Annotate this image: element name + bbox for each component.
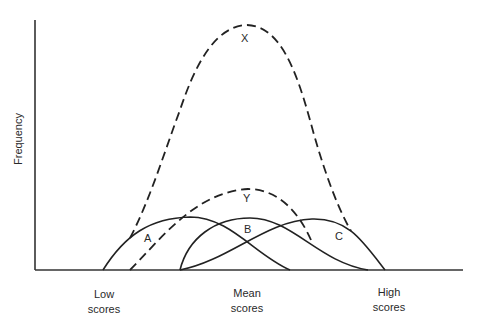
y-axis-label: Frequency (12, 125, 32, 165)
x-tick-mean-line1: Mean (233, 287, 261, 299)
x-tick-high-line1: High (378, 286, 401, 298)
x-tick-mean-line2: scores (217, 301, 277, 316)
label-y: Y (243, 192, 251, 204)
label-a: A (144, 232, 152, 244)
label-x: X (241, 32, 249, 44)
x-tick-mean: Mean scores (217, 286, 277, 316)
chart-canvas: X Y A B C (0, 0, 483, 329)
x-tick-low-line1: Low (94, 288, 114, 300)
curve-b (180, 218, 368, 270)
label-b: B (244, 223, 251, 235)
curve-a (103, 217, 290, 270)
x-tick-low-line2: scores (74, 302, 134, 317)
x-tick-high-line2: scores (359, 300, 419, 315)
curve-y (130, 189, 311, 270)
curve-x (130, 25, 351, 238)
label-c: C (335, 230, 343, 242)
x-tick-high: High scores (359, 285, 419, 315)
x-tick-low: Low scores (74, 287, 134, 317)
